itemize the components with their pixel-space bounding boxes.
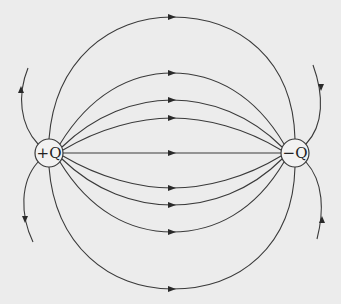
field-line-top-2: [60, 73, 284, 144]
arrow-right-icon: [168, 115, 176, 121]
dipole-diagram: +Q −Q: [0, 0, 341, 304]
field-line-bottom-3: [62, 159, 282, 205]
field-line-left-down: [24, 162, 38, 242]
arrow-right-icon: [168, 229, 176, 235]
arrow-right-icon: [168, 97, 176, 103]
arrow-up-icon: [319, 216, 325, 223]
field-line-bottom-outer: [49, 167, 295, 289]
field-line-right-up: [306, 65, 321, 144]
field-line-left-up: [22, 68, 38, 144]
arrow-right-icon: [168, 185, 176, 191]
negative-charge-label: −Q: [283, 144, 308, 162]
arrow-down-icon: [22, 216, 28, 223]
field-line-top-4: [63, 118, 281, 150]
field-line-bottom-2: [60, 162, 284, 232]
field-line-right-down: [306, 162, 321, 239]
arrow-right-icon: [168, 150, 176, 156]
positive-charge-label: +Q: [37, 144, 62, 162]
positive-charge: +Q: [35, 139, 63, 167]
field-line-top-3: [62, 100, 282, 147]
arrow-right-icon: [168, 286, 176, 292]
field-line-bottom-4: [63, 156, 281, 188]
arrow-right-icon: [168, 202, 176, 208]
field-line-top-outer: [49, 17, 295, 139]
arrow-right-icon: [168, 14, 176, 20]
arrow-right-icon: [168, 70, 176, 76]
negative-charge: −Q: [281, 139, 309, 167]
